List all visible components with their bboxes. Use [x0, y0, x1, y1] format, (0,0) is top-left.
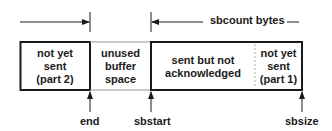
sbcount-label: sbcount bytes	[210, 14, 285, 26]
send-buffer-diagram: sbcount bytes not yet sent (part 2) unus…	[0, 0, 332, 131]
segment-not-yet-sent-part2: not yet sent (part 2)	[20, 47, 90, 86]
segment-unused-buffer-space: unused buffer space	[90, 47, 151, 86]
end-pointer-label: end	[80, 115, 100, 127]
sbsize-pointer-label: sbsize	[285, 115, 319, 127]
left-span-arrow	[20, 12, 90, 32]
segment-sent-not-acknowledged: sent but not acknowledged	[151, 54, 255, 80]
sbstart-pointer-label: sbstart	[134, 115, 171, 127]
segment-not-yet-sent-part1: not yet sent (part 1)	[255, 47, 302, 86]
